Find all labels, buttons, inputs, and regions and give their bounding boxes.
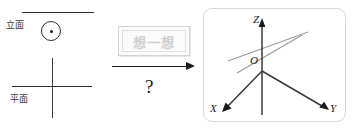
elevation-reference-line [22,12,94,13]
y-axis-arrowhead-icon [319,102,329,110]
end-on-line-center-dot-icon [50,30,53,33]
z-axis-arrowhead-icon [259,18,266,27]
question-mark: ? [145,76,153,98]
three-d-axes-panel: Z O X Y [203,8,346,122]
plan-vertical-line [52,58,53,118]
axes-drawing [204,9,346,122]
transition-arrow-shaft [112,66,188,67]
z-axis-label: Z [253,13,259,25]
orthographic-views-panel: 立面 平面 [0,0,115,129]
transition-arrow-head-icon [186,62,195,70]
stamp-text: 想一想 [133,32,175,51]
y-axis-line [262,71,322,106]
guide-line-1 [228,32,308,61]
origin-label: O [250,54,258,66]
elevation-view-label: 立面 [6,18,24,31]
x-axis-line [228,71,262,106]
plan-reference-line [12,86,92,87]
transition-panel: 想一想 ? [112,0,198,129]
x-axis-label: X [210,102,217,114]
plan-view-label: 平面 [10,92,28,105]
y-axis-label: Y [330,102,336,114]
think-about-it-stamp: 想一想 [118,26,190,56]
stamp-inner-border: 想一想 [122,30,186,52]
